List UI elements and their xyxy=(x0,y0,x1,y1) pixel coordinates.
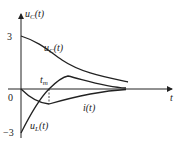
tick-neg3: −3 xyxy=(3,127,14,138)
tick-3: 3 xyxy=(7,31,12,42)
circuit-response-diagram: uC(t) t 3 0 −3 uC(t) i(t) uL(t) tm xyxy=(0,0,186,146)
uc-label: uC(t) xyxy=(44,42,64,55)
uc-curve xyxy=(21,36,128,82)
tick-0: 0 xyxy=(8,92,13,103)
ul-label: uL(t) xyxy=(30,120,49,133)
i-label: i(t) xyxy=(83,102,96,114)
x-axis-label: t xyxy=(170,92,173,103)
y-axis-label: uC(t) xyxy=(25,8,45,21)
i-curve xyxy=(21,89,126,104)
tm-label: tm xyxy=(40,74,48,87)
